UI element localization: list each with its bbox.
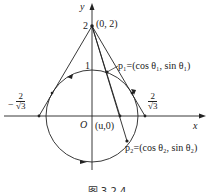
- apex-point: [90, 24, 94, 28]
- apex-y-tick: 2: [83, 21, 88, 31]
- x-axis-label: x: [193, 121, 197, 131]
- right-x-fraction: 2 √3: [148, 92, 157, 111]
- y-axis-label: y: [80, 2, 84, 12]
- p1-leader: [107, 66, 118, 72]
- left-x-fraction: 2 √3: [16, 92, 25, 111]
- figure-caption: 图 3.2.4: [0, 183, 214, 192]
- y-axis-arrow-icon: [90, 3, 95, 10]
- right-x-denominator: √3: [148, 102, 157, 111]
- circle-arrow-bottom-icon: [80, 160, 87, 164]
- left-x-sign: −: [8, 100, 14, 110]
- p2-label: p₂=(cos θ₂, sin θ₂): [125, 143, 197, 153]
- apex-label: (0, 2): [96, 19, 118, 29]
- left-x-denominator: √3: [16, 102, 25, 111]
- right-tangent-x-point: [144, 115, 147, 118]
- u-point-label: (u,0): [95, 121, 114, 131]
- left-tangency-point: [51, 92, 54, 95]
- x-axis-arrow-icon: [199, 114, 206, 119]
- left-tangent-x-point: [38, 115, 41, 118]
- origin-label: O: [80, 120, 87, 130]
- u-point: [119, 115, 122, 118]
- p1-label: p₁=(cos θ₁, sin θ₁): [118, 61, 190, 71]
- circle-top-tick: 1: [85, 61, 90, 71]
